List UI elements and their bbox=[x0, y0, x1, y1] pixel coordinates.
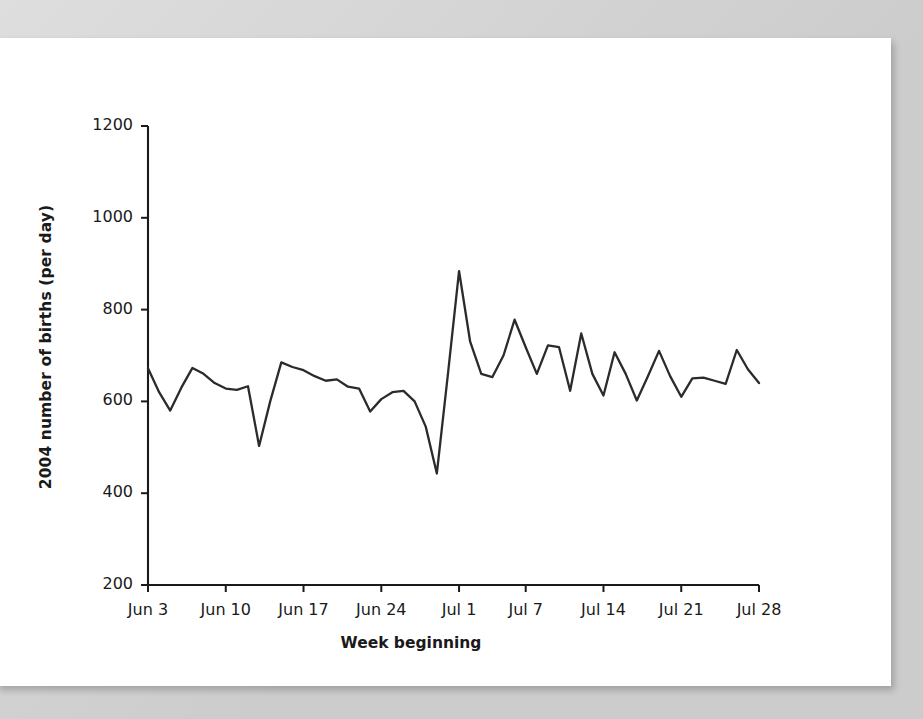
plot-area bbox=[0, 38, 891, 686]
data-series-line bbox=[148, 271, 759, 473]
chart-figure: 2004 number of births (per day) Week beg… bbox=[0, 38, 891, 686]
axes bbox=[147, 126, 759, 585]
figure-card: 2004 number of births (per day) Week beg… bbox=[0, 38, 891, 686]
